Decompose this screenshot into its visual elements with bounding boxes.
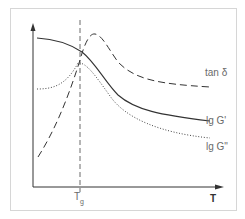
label-tan-delta: tan δ xyxy=(205,67,228,78)
label-lg-g-prime: lg G' xyxy=(206,115,226,126)
tg-label-sub: g xyxy=(80,198,84,206)
x-axis-label: T xyxy=(210,193,216,204)
label-lg-g-double-prime: lg G" xyxy=(206,141,228,152)
chart: tan δ lg G' lg G" T Tg xyxy=(0,0,245,219)
